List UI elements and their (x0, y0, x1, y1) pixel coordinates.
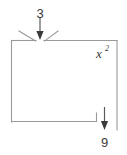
machine-function-label: x (95, 46, 102, 61)
input-arrow-head (36, 31, 43, 40)
function-machine-diagram: 3 x 2 9 (0, 0, 127, 155)
funnel-right-line (45, 31, 59, 41)
input-value-label: 3 (36, 6, 43, 21)
output-arrow (101, 107, 108, 130)
diagram-canvas: 3 x 2 9 (0, 0, 127, 155)
output-value-label: 9 (101, 135, 108, 150)
funnel-left-line (19, 31, 36, 41)
input-arrow (36, 18, 43, 40)
output-arrow-head (101, 121, 108, 130)
machine-function-exponent: 2 (105, 44, 109, 53)
